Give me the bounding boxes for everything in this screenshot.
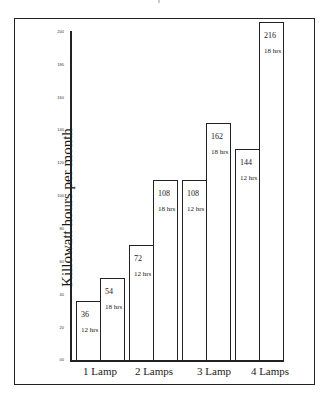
scan-artifact — [158, 0, 160, 3]
bar-2lamps-12hrs: 72 12 hrs — [129, 245, 154, 361]
bar-4lamps-18hrs: 216 18 hrs — [259, 22, 284, 361]
bar-hours: 18 hrs — [211, 148, 228, 156]
y-tick: 40 — [40, 292, 64, 297]
y-tick: 160 — [40, 95, 64, 100]
y-axis — [70, 31, 72, 361]
bar-hours: 18 hrs — [158, 205, 175, 213]
bar-value: 72 — [134, 254, 142, 263]
y-tick: 60 — [40, 259, 64, 264]
y-tick: 180 — [40, 62, 64, 67]
x-category-label: 4 Lamps — [240, 365, 300, 377]
bar-value: 108 — [187, 189, 199, 198]
x-category-label: 1 Lamp — [70, 365, 130, 377]
bar-value: 216 — [264, 31, 276, 40]
bar-4lamps-12hrs: 144 12 hrs — [235, 149, 260, 361]
bar-value: 36 — [81, 310, 89, 319]
bar-3lamp-18hrs: 162 18 hrs — [206, 123, 231, 361]
bar-hours: 12 hrs — [240, 174, 257, 182]
bar-value: 144 — [240, 158, 252, 167]
bar-hours: 18 hrs — [264, 47, 281, 55]
y-tick: 100 — [40, 193, 64, 198]
bar-hours: 12 hrs — [81, 326, 98, 334]
bar-1lamp-12hrs: 36 12 hrs — [76, 301, 101, 361]
bar-hours: 12 hrs — [134, 270, 151, 278]
bar-3lamp-12hrs: 108 12 hrs — [182, 180, 207, 361]
y-tick: 140 — [40, 127, 64, 132]
x-category-label: 2 Lamps — [124, 365, 184, 377]
y-tick: 120 — [40, 160, 64, 165]
bar-1lamp-18hrs: 54 18 hrs — [100, 278, 125, 361]
y-axis-label: Killowatt hours per month — [59, 108, 76, 308]
y-tick: 00 — [40, 357, 64, 362]
bar-hours: 18 hrs — [105, 303, 122, 311]
bar-2lamps-18hrs: 108 18 hrs — [153, 180, 178, 361]
bar-value: 108 — [158, 189, 170, 198]
y-tick: 20 — [40, 325, 64, 330]
y-tick: 200 — [40, 29, 64, 34]
bar-hours: 12 hrs — [187, 205, 204, 213]
y-tick: 80 — [40, 226, 64, 231]
x-category-label: 3 Lamp — [184, 365, 244, 377]
bar-value: 54 — [105, 287, 113, 296]
bar-value: 162 — [211, 132, 223, 141]
